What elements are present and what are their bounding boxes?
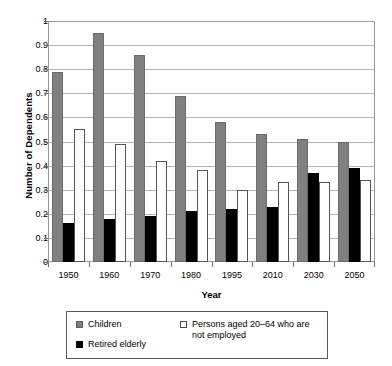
legend-swatch-retired-elderly-icon	[76, 341, 83, 348]
x-tick-label: 2030	[293, 269, 334, 283]
gridline	[49, 45, 374, 46]
x-tick-label: 1950	[48, 269, 89, 283]
x-tick-mark	[89, 262, 90, 267]
gridline	[49, 190, 374, 191]
legend-swatch-not-employed-icon	[180, 321, 187, 328]
x-tick-label: 1960	[89, 269, 130, 283]
x-tick-mark	[334, 262, 335, 267]
x-axis-title: Year	[48, 289, 375, 300]
x-tick-label: 1995	[212, 269, 253, 283]
y-tick-label: 0.3	[6, 185, 48, 194]
gridline	[49, 93, 374, 94]
x-axis-ticks	[48, 262, 375, 268]
gridline	[49, 117, 374, 118]
y-axis-ticks: 10.90.80.70.60.50.40.30.20.10	[0, 0, 48, 366]
x-tick-label: 1980	[171, 269, 212, 283]
y-tick-label: 0.7	[6, 89, 48, 98]
x-tick-mark	[130, 262, 131, 267]
legend-item-children: Children	[76, 319, 184, 330]
x-tick-mark	[48, 262, 49, 267]
legend-item-retired-elderly: Retired elderly	[76, 339, 184, 350]
x-tick-label: 1970	[130, 269, 171, 283]
x-tick-mark	[171, 262, 172, 267]
legend-swatch-children-icon	[76, 321, 83, 328]
legend: Children Retired elderly Persons aged 20…	[66, 311, 328, 359]
gridline	[49, 214, 374, 215]
y-tick-label: 0	[6, 258, 48, 267]
x-tick-mark	[293, 262, 294, 267]
x-tick-label: 2050	[334, 269, 375, 283]
legend-column-left: Children Retired elderly	[76, 319, 184, 359]
legend-column-right: Persons aged 20–64 who are not employed	[180, 319, 322, 350]
gridline	[49, 238, 374, 239]
gridline	[49, 142, 374, 143]
bar-chart: Number of Dependents 10.90.80.70.60.50.4…	[0, 0, 392, 366]
x-tick-label: 2010	[252, 269, 293, 283]
y-tick-label: 0.9	[6, 41, 48, 50]
legend-label-retired-elderly: Retired elderly	[88, 339, 146, 350]
y-tick-label: 0.1	[6, 233, 48, 242]
x-axis-labels: 19501960197019801995201020302050	[48, 269, 375, 283]
y-tick-label: 0.6	[6, 113, 48, 122]
legend-label-not-employed: Persons aged 20–64 who are not employed	[192, 319, 322, 341]
gridline	[49, 166, 374, 167]
y-tick-label: 0.8	[6, 65, 48, 74]
x-tick-mark	[252, 262, 253, 267]
y-tick-label: 0.5	[6, 137, 48, 146]
legend-item-not-employed: Persons aged 20–64 who are not employed	[180, 319, 322, 341]
y-tick-label: 1	[6, 17, 48, 26]
y-tick-label: 0.4	[6, 161, 48, 170]
plot-area	[48, 21, 375, 262]
legend-label-children: Children	[88, 319, 122, 330]
x-tick-mark	[212, 262, 213, 267]
gridline	[49, 69, 374, 70]
x-tick-mark	[374, 262, 375, 267]
y-tick-label: 0.2	[6, 209, 48, 218]
